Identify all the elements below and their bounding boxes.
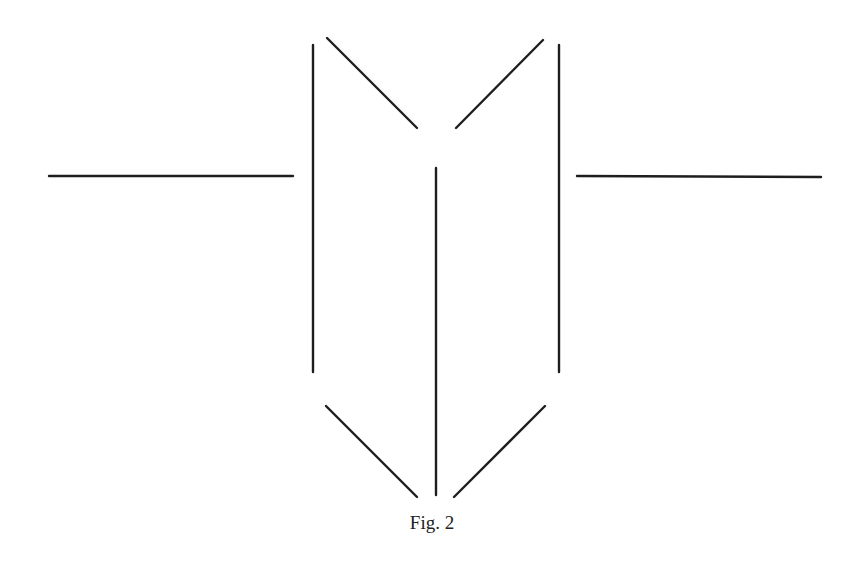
right-horizontal-lead — [577, 176, 821, 177]
upper-left-diagonal — [327, 38, 417, 128]
lower-right-diagonal — [454, 406, 545, 497]
upper-right-diagonal — [456, 40, 543, 128]
lower-left-diagonal — [326, 406, 417, 497]
figure-diagram — [0, 0, 864, 575]
figure-caption: Fig. 2 — [0, 512, 864, 534]
